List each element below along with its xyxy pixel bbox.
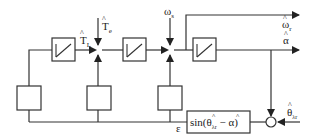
hat-theta: ^ [288,101,292,110]
arrow-into-sum2 [161,46,169,54]
hat-wr: ^ [283,14,287,23]
gain-block-1 [17,86,41,110]
label-ws: ωs [164,5,174,20]
integrator-1 [52,38,75,61]
integrator-3 [193,38,216,61]
integrator-2 [123,38,146,61]
gain-block-2 [87,86,111,110]
hat-te: ^ [102,15,106,24]
sum-junction-circle [266,117,276,127]
gain-block-3 [158,86,182,110]
hat-alpha: ^ [284,30,288,39]
hat-tl: ^ [80,29,84,38]
wire-gain1-to-int1 [29,50,52,86]
observer-block-diagram: TL ^ Te ^ ωs ωr ^ α ^ θλr ^ ε sin(θλr − … [0,0,314,140]
label-epsilon: ε [176,122,181,134]
